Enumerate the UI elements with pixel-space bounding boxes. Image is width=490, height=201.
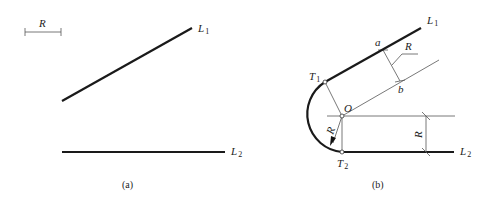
dimension-label: R	[412, 131, 424, 139]
label-t1: T1	[309, 70, 320, 84]
caption-b: (b)	[372, 179, 384, 191]
radius-label-arrow: R	[323, 125, 337, 137]
label-o: O	[344, 102, 352, 114]
panel-b: R L1 L2 R R T1 T2 O a b (b)	[307, 14, 471, 191]
label-l2-a: L2	[230, 145, 242, 159]
point-o	[340, 114, 344, 118]
line-l1-a	[62, 28, 192, 101]
perpendicular-o-t1	[325, 82, 342, 116]
diagram-canvas: R L1 L2 (a) R L1 L2 R	[0, 0, 490, 201]
panel-a: R L1 L2 (a)	[25, 17, 242, 191]
scale-bar-label: R	[38, 17, 46, 29]
label-l2-b: L2	[459, 145, 471, 159]
label-b: b	[398, 83, 404, 95]
line-l1-b	[325, 28, 421, 82]
point-t2	[340, 150, 344, 154]
parallel-line-l1	[342, 60, 439, 116]
segment-ab	[383, 50, 400, 81]
radius-leader	[392, 54, 418, 65]
tangent-arc	[307, 82, 342, 152]
label-t2: T2	[337, 157, 348, 171]
point-t1	[323, 80, 327, 84]
scale-bar: R	[25, 17, 61, 36]
label-l1-a: L1	[197, 22, 209, 36]
radius-label-ab: R	[404, 40, 412, 52]
caption-a: (a)	[122, 179, 133, 191]
label-l1-b: L1	[426, 14, 438, 28]
label-a: a	[375, 36, 381, 48]
